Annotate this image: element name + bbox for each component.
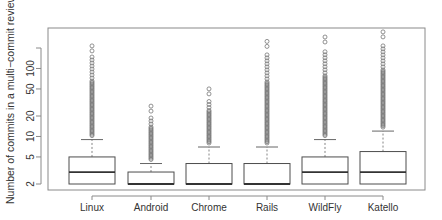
y-axis: 25102050100 — [25, 48, 41, 187]
x-tick-label: Katello — [368, 202, 399, 213]
x-tick-label: Android — [134, 202, 168, 213]
box-wildfly — [302, 35, 348, 184]
y-tick-label: 2 — [25, 181, 36, 187]
y-tick-label: 20 — [25, 110, 36, 122]
x-axis: LinuxAndroidChromeRailsWildFlyKatello — [80, 196, 399, 213]
x-tick-label: WildFly — [309, 202, 342, 213]
x-tick-label: Rails — [256, 202, 278, 213]
boxes — [69, 30, 406, 184]
y-axis-label: Number of commits in a multi−commit revi… — [4, 0, 16, 204]
x-tick-label: Chrome — [191, 202, 227, 213]
box-katello — [360, 30, 406, 184]
box-android — [128, 104, 174, 184]
x-tick-label: Linux — [80, 202, 104, 213]
box-chrome — [186, 87, 232, 184]
y-tick-label: 10 — [25, 130, 36, 142]
y-tick-label: 100 — [25, 60, 36, 77]
y-tick-label: 50 — [25, 83, 36, 95]
boxplot-chart: 25102050100 LinuxAndroidChromeRailsWildF… — [0, 0, 442, 220]
box-linux — [69, 44, 115, 184]
y-tick-label: 5 — [25, 154, 36, 160]
box-rails — [244, 39, 290, 184]
